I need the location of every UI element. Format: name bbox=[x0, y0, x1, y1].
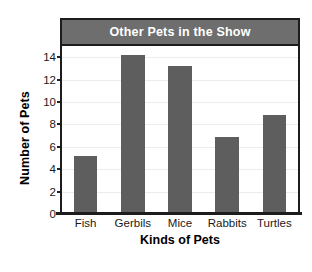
y-axis-title: Number of Pets bbox=[14, 58, 36, 218]
x-tick-label: Turtles bbox=[257, 217, 292, 229]
plot-frame: Other Pets in the Show bbox=[60, 18, 300, 214]
y-tick-label: 10 bbox=[43, 96, 56, 108]
chart-title-banner: Other Pets in the Show bbox=[62, 20, 298, 46]
y-tick-label: 4 bbox=[50, 163, 56, 175]
x-tick-label: Mice bbox=[168, 217, 192, 229]
bar bbox=[168, 66, 192, 212]
y-tick-label: 12 bbox=[43, 74, 56, 86]
bar bbox=[215, 137, 239, 212]
x-axis-title: Kinds of Pets bbox=[60, 233, 300, 247]
y-axis-tick-labels: 02468101214 bbox=[34, 58, 56, 214]
x-axis-tick-labels: FishGerbilsMiceRabbitsTurtles bbox=[60, 217, 300, 233]
plot-area bbox=[62, 46, 298, 212]
chart-title: Other Pets in the Show bbox=[109, 25, 250, 39]
x-tick-label: Gerbils bbox=[115, 217, 151, 229]
gridline bbox=[62, 57, 298, 58]
x-axis-line bbox=[56, 212, 302, 215]
y-tick-label: 14 bbox=[43, 51, 56, 63]
x-tick-label: Fish bbox=[75, 217, 97, 229]
bar-chart-figure: Number of Pets 02468101214 Other Pets in… bbox=[0, 0, 312, 272]
x-tick-label: Rabbits bbox=[208, 217, 247, 229]
bar bbox=[74, 156, 98, 212]
bar bbox=[121, 55, 145, 212]
y-tick-label: 8 bbox=[50, 118, 56, 130]
y-tick-label: 2 bbox=[50, 186, 56, 198]
y-tick-label: 6 bbox=[50, 141, 56, 153]
bar bbox=[263, 115, 287, 212]
y-axis-title-text: Number of Pets bbox=[18, 91, 32, 185]
